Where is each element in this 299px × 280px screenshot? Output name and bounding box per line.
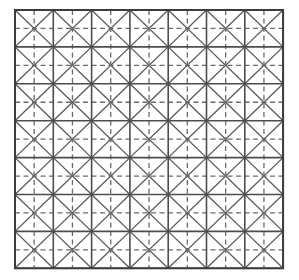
figure-root	[0, 0, 299, 280]
mesh-diagram	[0, 0, 299, 280]
